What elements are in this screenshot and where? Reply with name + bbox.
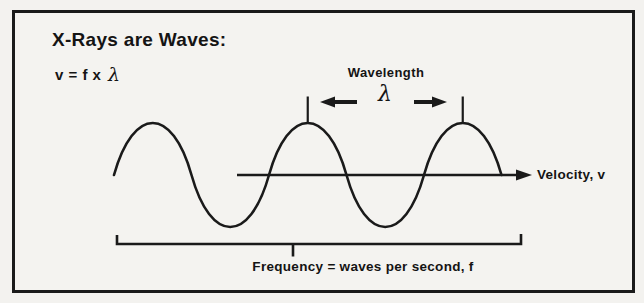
velocity-arrowhead-icon [516,170,532,181]
wavelength-lambda-symbol: λ [345,83,425,105]
figure-canvas: X-Rays are Waves: v = f x λ Wavelength λ… [0,0,644,303]
wavelength-right-arrow-icon [432,97,447,108]
frequency-label: Frequency = waves per second, f [233,260,493,274]
wavelength-left-arrow-icon [320,97,335,108]
frequency-bracket [117,234,521,244]
wave-diagram [0,0,644,303]
wavelength-label: Wavelength [306,66,466,79]
velocity-label: Velocity, v [537,168,605,182]
